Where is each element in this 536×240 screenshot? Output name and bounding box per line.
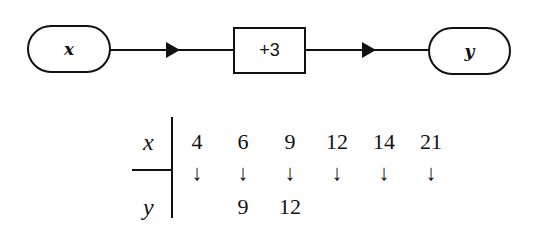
row-label-x: x bbox=[143, 130, 154, 154]
input-node: x bbox=[27, 25, 111, 73]
table-horizontal-divider bbox=[132, 169, 172, 171]
x-value: 4 bbox=[177, 130, 217, 154]
output-node: y bbox=[428, 27, 511, 75]
down-arrow-icon: ↓ bbox=[270, 162, 310, 184]
arrowhead-icon bbox=[166, 42, 180, 58]
down-arrow-icon: ↓ bbox=[317, 162, 357, 184]
x-value: 9 bbox=[270, 130, 310, 154]
down-arrow-icon: ↓ bbox=[411, 162, 451, 184]
operation-label: +3 bbox=[259, 40, 280, 61]
input-label: x bbox=[64, 39, 74, 59]
x-value: 14 bbox=[364, 130, 404, 154]
output-label: y bbox=[465, 41, 475, 61]
down-arrow-icon: ↓ bbox=[223, 162, 263, 184]
operation-box: +3 bbox=[233, 27, 306, 74]
x-value: 6 bbox=[223, 130, 263, 154]
down-arrow-icon: ↓ bbox=[177, 162, 217, 184]
x-value: 12 bbox=[317, 130, 357, 154]
y-value: 12 bbox=[270, 195, 310, 219]
x-value: 21 bbox=[411, 130, 451, 154]
row-label-y: y bbox=[143, 195, 154, 219]
table-vertical-divider bbox=[171, 117, 173, 218]
down-arrow-icon: ↓ bbox=[364, 162, 404, 184]
arrowhead-icon bbox=[362, 42, 376, 58]
y-value: 9 bbox=[223, 195, 263, 219]
